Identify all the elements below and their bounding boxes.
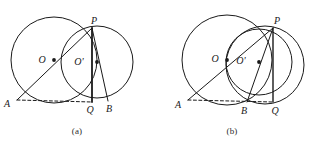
geometry-diagram-a: POO'AQB (0, 0, 154, 128)
point-label-O: O (211, 53, 218, 64)
point-label-Q: Q (271, 105, 279, 116)
center-dot-O-prime (257, 60, 261, 64)
figure-panel-b: POO'ABQ (b) (155, 0, 309, 154)
figure-caption-b: (b) (155, 126, 309, 136)
point-label-P: P (90, 15, 97, 26)
point-label-Q: Q (86, 104, 94, 115)
segment-A-Q (188, 100, 273, 102)
geometry-diagram-b: POO'ABQ (155, 0, 309, 128)
center-dot-O-prime (95, 60, 99, 64)
figure-panel-a: POO'AQB (a) (0, 0, 154, 154)
point-label-A: A (3, 98, 11, 109)
point-label-A: A (174, 99, 182, 110)
center-dot-O (225, 58, 229, 62)
point-label-B: B (106, 103, 112, 114)
point-label-P: P (273, 15, 280, 26)
center-dot-O (52, 58, 56, 62)
figure-caption-a: (a) (0, 126, 154, 136)
point-label-O-prime: O' (236, 55, 246, 66)
segment-A-Q (17, 100, 92, 102)
point-label-B: B (241, 105, 247, 116)
figure-sheet: POO'AQB (a) POO'ABQ (b) (0, 0, 309, 154)
point-label-O: O (38, 54, 45, 65)
point-label-O-prime: O' (74, 56, 84, 67)
segment-P-B (92, 28, 108, 101)
